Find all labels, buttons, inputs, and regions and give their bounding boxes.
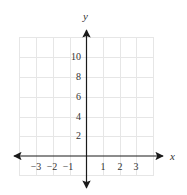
y-tick-label: 10 [71, 51, 81, 62]
x-tick-label: −2 [47, 161, 58, 172]
x-tick-label: 2 [118, 161, 123, 172]
x-tick-label: 3 [134, 161, 139, 172]
y-axis-label: y [82, 10, 88, 22]
x-tick-label: 1 [101, 161, 106, 172]
coordinate-plane: x y 10 8 6 4 2 −3 −2 −1 1 2 3 [0, 0, 187, 195]
y-tick-label: 4 [76, 111, 81, 122]
y-tick-label: 2 [76, 130, 81, 141]
x-tick-label: −1 [63, 161, 74, 172]
x-axis-label: x [169, 150, 175, 162]
y-tick-label: 8 [76, 71, 81, 82]
y-tick-label: 6 [76, 91, 81, 102]
x-tick-label: −3 [31, 161, 42, 172]
